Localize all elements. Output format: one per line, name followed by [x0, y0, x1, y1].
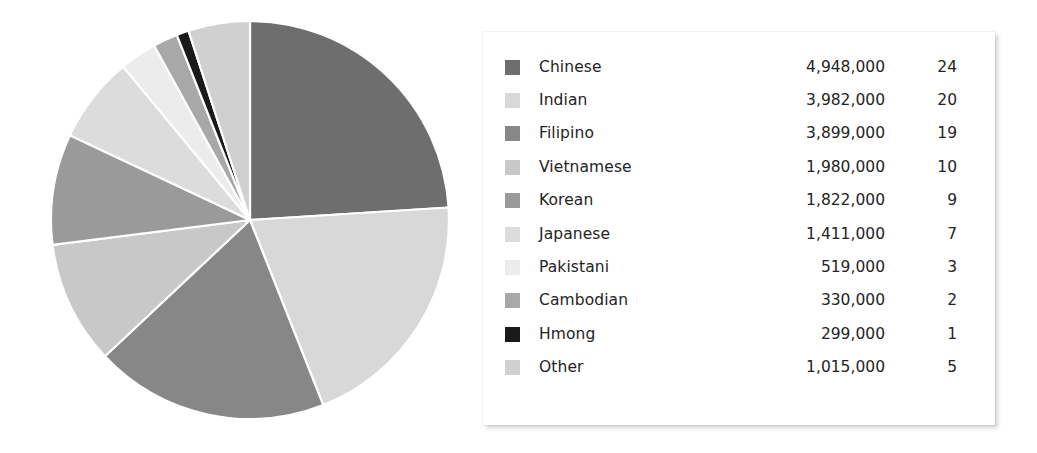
legend-panel: Chinese4,948,00024Indian3,982,00020Filip…	[483, 32, 995, 425]
legend-swatch-cell	[505, 117, 539, 150]
legend-color-swatch	[505, 293, 520, 308]
legend-swatch-cell	[505, 250, 539, 283]
legend-row: Hmong299,0001	[505, 317, 957, 350]
legend-row: Filipino3,899,00019	[505, 117, 957, 150]
legend-swatch-cell	[505, 217, 539, 250]
legend-percent: 3	[885, 250, 957, 283]
pie-chart	[50, 20, 450, 420]
legend-percent: 19	[885, 117, 957, 150]
legend-percent: 9	[885, 184, 957, 217]
legend-value: 299,000	[735, 317, 885, 350]
legend-value: 1,015,000	[735, 351, 885, 384]
legend-color-swatch	[505, 160, 520, 175]
legend-row: Other1,015,0005	[505, 351, 957, 384]
legend-label: Filipino	[539, 117, 735, 150]
legend-percent: 20	[885, 83, 957, 116]
legend-label: Hmong	[539, 317, 735, 350]
legend-label: Other	[539, 351, 735, 384]
legend-row: Korean1,822,0009	[505, 184, 957, 217]
legend-color-swatch	[505, 260, 520, 275]
legend-value: 1,411,000	[735, 217, 885, 250]
legend-color-swatch	[505, 93, 520, 108]
pie-slice-chinese	[250, 21, 449, 220]
legend-swatch-cell	[505, 150, 539, 183]
legend-swatch-cell	[505, 184, 539, 217]
legend-value: 1,822,000	[735, 184, 885, 217]
legend-percent: 7	[885, 217, 957, 250]
legend-swatch-cell	[505, 351, 539, 384]
legend-value: 330,000	[735, 284, 885, 317]
legend-color-swatch	[505, 227, 520, 242]
legend-percent: 10	[885, 150, 957, 183]
legend-label: Cambodian	[539, 284, 735, 317]
legend-swatch-cell	[505, 317, 539, 350]
legend-row: Pakistani519,0003	[505, 250, 957, 283]
legend-swatch-cell	[505, 284, 539, 317]
legend-row: Chinese4,948,00024	[505, 50, 957, 83]
legend-label: Japanese	[539, 217, 735, 250]
legend-color-swatch	[505, 327, 520, 342]
legend-percent: 2	[885, 284, 957, 317]
legend-percent: 1	[885, 317, 957, 350]
legend-percent: 24	[885, 50, 957, 83]
legend-swatch-cell	[505, 83, 539, 116]
pie-chart-figure: Chinese4,948,00024Indian3,982,00020Filip…	[0, 0, 1037, 453]
legend-value: 4,948,000	[735, 50, 885, 83]
pie-chart-svg	[50, 20, 450, 420]
legend-label: Pakistani	[539, 250, 735, 283]
legend-row: Indian3,982,00020	[505, 83, 957, 116]
legend-color-swatch	[505, 193, 520, 208]
legend-body: Chinese4,948,00024Indian3,982,00020Filip…	[505, 50, 957, 384]
legend-row: Cambodian330,0002	[505, 284, 957, 317]
legend-color-swatch	[505, 60, 520, 75]
legend-label: Vietnamese	[539, 150, 735, 183]
legend-row: Japanese1,411,0007	[505, 217, 957, 250]
legend-label: Chinese	[539, 50, 735, 83]
legend-color-swatch	[505, 126, 520, 141]
legend-label: Indian	[539, 83, 735, 116]
legend-row: Vietnamese1,980,00010	[505, 150, 957, 183]
legend-table: Chinese4,948,00024Indian3,982,00020Filip…	[505, 50, 957, 384]
legend-swatch-cell	[505, 50, 539, 83]
legend-value: 3,982,000	[735, 83, 885, 116]
legend-label: Korean	[539, 184, 735, 217]
legend-color-swatch	[505, 360, 520, 375]
legend-value: 1,980,000	[735, 150, 885, 183]
legend-value: 3,899,000	[735, 117, 885, 150]
legend-percent: 5	[885, 351, 957, 384]
legend-value: 519,000	[735, 250, 885, 283]
